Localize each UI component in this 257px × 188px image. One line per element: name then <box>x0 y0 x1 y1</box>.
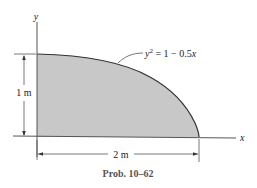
width-arrow-right-icon <box>193 152 198 156</box>
width-dimension-label: 2 m <box>113 149 129 160</box>
curve-equation-label: y2 = 1 − 0.5x <box>144 47 197 59</box>
diagram-canvas: y x 1 m 2 m y2 = 1 − 0.5x Prob. 10–62 <box>0 0 257 188</box>
height-arrow-bottom-icon <box>22 131 26 136</box>
y-axis-label: y <box>33 11 39 22</box>
height-dimension-label: 1 m <box>16 87 32 98</box>
width-arrow-left-icon <box>38 152 43 156</box>
curve-equation-rhs: = 1 − 0.5 <box>153 48 192 59</box>
height-arrow-top-icon <box>22 55 26 60</box>
x-axis-label: x <box>239 132 245 143</box>
curve-label-leader <box>118 53 143 63</box>
figure-caption: Prob. 10–62 <box>103 168 154 179</box>
curve-equation-x: x <box>191 48 197 59</box>
figure: y x 1 m 2 m y2 = 1 − 0.5x Prob. 10–62 <box>0 0 257 188</box>
